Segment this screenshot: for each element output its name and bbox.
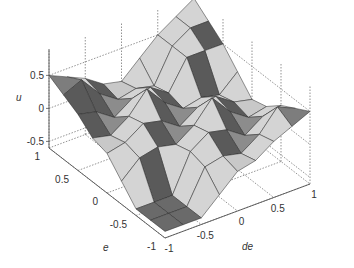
z-tick-label: 0 <box>38 103 44 114</box>
de-tick-label: -0.5 <box>197 230 215 241</box>
z-tick-label: 0.5 <box>30 70 44 81</box>
de-tick-label: 1 <box>311 189 317 200</box>
surface-plot: -0.500.5-1-0.500.51-1-0.500.51 u e de <box>0 0 354 268</box>
z-tick-label: -0.5 <box>27 136 45 147</box>
z-axis-label: u <box>16 92 22 103</box>
de-tick-label: 0.5 <box>271 203 285 214</box>
surface-plot-figure: -0.500.5-1-0.500.51-1-0.500.51 u e de <box>0 0 354 268</box>
e-tick-label: -0.5 <box>110 219 128 230</box>
e-tick-label: 0 <box>92 196 98 207</box>
de-tick-label: 0 <box>239 216 245 227</box>
e-tick-label: -1 <box>147 241 156 252</box>
e-axis-label: e <box>103 242 109 253</box>
de-axis-label: de <box>242 241 254 252</box>
e-tick-label: 0.5 <box>55 174 69 185</box>
de-tick-label: -1 <box>165 243 174 254</box>
surface-mesh <box>49 0 310 231</box>
e-tick-label: 1 <box>34 151 40 162</box>
